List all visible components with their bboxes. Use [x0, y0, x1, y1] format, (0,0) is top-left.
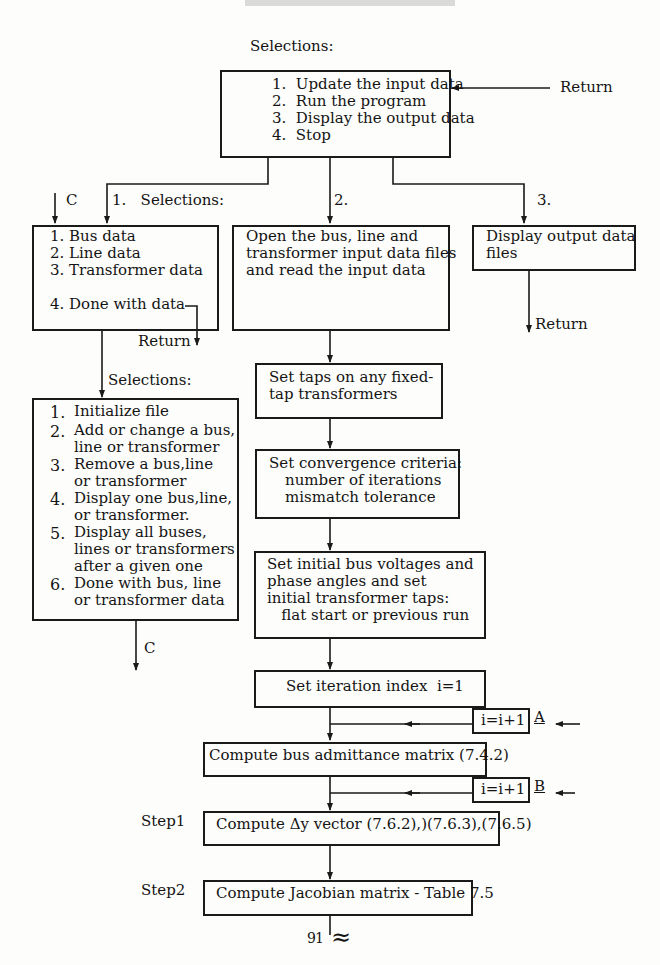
edit-menu-item: 2.Add or change a bus,line or transforme…	[50, 422, 237, 456]
admittance-box[interactable]: Compute bus admittance matrix (7.4.2)	[203, 742, 487, 777]
main-menu-item: 3. Display the output data	[272, 110, 449, 127]
box-text-line: and read the input data	[246, 262, 448, 279]
item-text: or transformer data	[74, 592, 225, 609]
box-text-line: transformer input data files	[246, 245, 448, 262]
main-menu-item: 1. Update the input data	[272, 76, 449, 93]
branch-1-label: 1. Selections:	[112, 192, 224, 209]
convergence-box[interactable]: Set convergence criteria: number of iter…	[255, 449, 460, 519]
box-text-line: tap transformers	[269, 386, 441, 403]
item-text: or transformer	[74, 473, 213, 490]
item-text: Done with bus, line	[74, 575, 225, 592]
box-text-line: i=i+1	[481, 712, 528, 729]
step2-label: Step2	[141, 882, 185, 899]
item-text: Remove a bus,line	[74, 456, 213, 473]
item-number: 4.	[50, 490, 74, 524]
box-text-line: phase angles and set	[267, 573, 484, 590]
break-icon: ≈	[331, 924, 351, 950]
step2-box[interactable]: Compute Jacobian matrix - Table 7.5	[203, 880, 473, 916]
box-text-line: initial transformer taps:	[267, 590, 484, 607]
edit-selections-label: Selections:	[108, 372, 192, 389]
initial-conditions-box[interactable]: Set initial bus voltages and phase angle…	[254, 551, 486, 639]
branch-3-label: 3.	[537, 192, 551, 209]
box-text-line: Open the bus, line and	[246, 228, 448, 245]
item-text: or transformer.	[74, 507, 232, 524]
box-text-line: Display output data	[486, 228, 634, 245]
display-output-return-label: Return	[535, 316, 588, 333]
top-selections-label: Selections:	[250, 38, 334, 55]
box-text-line: files	[486, 245, 634, 262]
increment-a-box[interactable]: i=i+1	[472, 708, 530, 734]
c-out-label: C	[144, 640, 155, 657]
data-menu-item: 3. Transformer data	[50, 262, 217, 279]
data-menu-return-label: Return	[138, 333, 191, 350]
display-output-box[interactable]: Display output data files	[472, 225, 636, 271]
main-menu-item: 4. Stop	[272, 127, 449, 144]
item-text: lines or transformers	[74, 541, 235, 558]
box-text-line: Set initial bus voltages and	[267, 556, 484, 573]
item-number: 6.	[50, 575, 74, 609]
box-text-line: Compute Δy vector (7.6.2),)(7.6.3),(7.6.…	[216, 816, 498, 833]
edit-menu-item: 5.Display all buses,lines or transformer…	[50, 524, 237, 575]
edit-menu-item: 1.Initialize file	[50, 403, 237, 422]
set-taps-box[interactable]: Set taps on any fixed- tap transformers	[255, 363, 443, 419]
item-number: 5.	[50, 524, 74, 575]
edit-menu-item: 6.Done with bus, lineor transformer data	[50, 575, 237, 609]
top-return-label: Return	[560, 79, 613, 96]
box-text-line: Set iteration index i=1	[286, 678, 484, 695]
box-text-line: Set convergence criteria:	[269, 455, 458, 472]
data-menu-item: 4. Done with data	[50, 296, 217, 313]
item-text: Initialize file	[74, 403, 169, 420]
step1-label: Step1	[141, 813, 185, 830]
main-menu-box[interactable]: 1. Update the input data 2. Run the prog…	[220, 70, 451, 158]
item-number: 2.	[50, 422, 74, 456]
box-text-line: flat start or previous run	[267, 607, 484, 624]
box-text-line: i=i+1	[481, 781, 528, 798]
branch-2-label: 2.	[334, 192, 348, 209]
edit-menu-item: 4.Display one bus,line,or transformer.	[50, 490, 237, 524]
edit-menu-item: 3.Remove a bus,lineor transformer	[50, 456, 237, 490]
item-text: Add or change a bus,	[74, 422, 235, 439]
edit-menu-box[interactable]: 1.Initialize file 2.Add or change a bus,…	[32, 398, 239, 621]
item-number: 1.	[50, 403, 74, 422]
page-number: 91	[307, 930, 323, 947]
box-text-line: mismatch tolerance	[269, 489, 458, 506]
box-text-line: number of iterations	[269, 472, 458, 489]
box-text-line: Compute Jacobian matrix - Table 7.5	[216, 885, 471, 902]
connector-a-label: A	[534, 709, 545, 726]
connector-b-label: B	[534, 778, 545, 795]
data-menu-box[interactable]: 1. Bus data 2. Line data 3. Transformer …	[32, 225, 219, 331]
increment-b-box[interactable]: i=i+1	[472, 777, 530, 803]
data-menu-item: 2. Line data	[50, 245, 217, 262]
c-in-label: C	[66, 192, 77, 209]
data-menu-item: 1. Bus data	[50, 228, 217, 245]
box-text-line: Set taps on any fixed-	[269, 369, 441, 386]
open-files-box[interactable]: Open the bus, line and transformer input…	[232, 225, 450, 331]
item-text: Display one bus,line,	[74, 490, 232, 507]
item-text: line or transformer	[74, 439, 235, 456]
item-text: after a given one	[74, 558, 235, 575]
main-menu-item: 2. Run the program	[272, 93, 449, 110]
box-text-line: Compute bus admittance matrix (7.4.2)	[209, 747, 485, 764]
item-number: 3.	[50, 456, 74, 490]
step1-box[interactable]: Compute Δy vector (7.6.2),)(7.6.3),(7.6.…	[203, 811, 500, 846]
item-text: Display all buses,	[74, 524, 235, 541]
iteration-index-box[interactable]: Set iteration index i=1	[254, 670, 486, 708]
